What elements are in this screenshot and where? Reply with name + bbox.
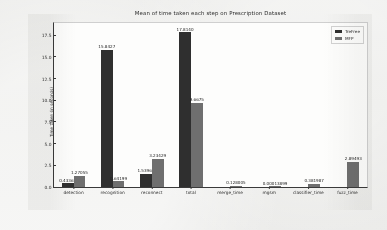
bar-total-mfp[interactable]: 9.6675 [191, 103, 203, 187]
bar-group: 0.381987classifier_time [289, 23, 328, 187]
y-tick-label: 7.5 [45, 119, 54, 124]
bar-total-trefree[interactable]: 17.8140 [179, 32, 191, 187]
bar-value-label: 1.27055 [71, 170, 88, 175]
bar-value-label: 3.23429 [149, 153, 166, 158]
bar-value-label: 15.8427 [98, 44, 115, 49]
bar-recognition-mfp[interactable]: 0.64199 [113, 181, 125, 187]
bar-value-label: 0.00013899 [263, 181, 288, 186]
chart-legend: TreFree MFP [331, 26, 364, 44]
legend-item-series-1: MFP [335, 36, 360, 41]
bar-value-label: 0.381987 [304, 178, 324, 183]
plot-area: 0.02.55.07.510.012.515.017.5 0.433631.27… [53, 22, 368, 188]
bar-group: 0.00013899mgsm [250, 23, 289, 187]
chart-figure: Mean of time taken each step on Prescrip… [28, 14, 372, 210]
bar-value-label: 0.64199 [110, 176, 127, 181]
bar-group: 17.81409.6675total [171, 23, 210, 187]
x-tick-label-reconnect: reconnect [141, 190, 162, 195]
bar-classifier_time-mfp[interactable]: 0.381987 [308, 184, 320, 187]
bar-group: 2.89493fuzz_time [328, 23, 367, 187]
y-tick-label: 0.0 [45, 185, 54, 190]
bar-fuzz_time-mfp[interactable]: 2.89493 [347, 162, 359, 187]
bar-value-label: 0.128005 [226, 180, 246, 185]
legend-label-mfp: MFP [345, 36, 354, 41]
y-tick-label: 15.0 [42, 54, 54, 59]
legend-label-trefree: TreFree [345, 29, 360, 34]
y-tick-label: 10.0 [42, 98, 54, 103]
legend-swatch-mfp [335, 37, 342, 40]
bar-recognition-trefree[interactable]: 15.8427 [101, 50, 113, 187]
y-tick-label: 2.5 [45, 163, 54, 168]
legend-item-series-0: TreFree [335, 29, 360, 34]
figure-background: Mean of time taken each step on Prescrip… [0, 0, 387, 230]
x-tick-label-fuzz_time: fuzz_time [337, 190, 358, 195]
x-tick-label-classifier_time: classifier_time [293, 190, 324, 195]
bar-group: 0.433631.27055detection [54, 23, 93, 187]
bar-value-label: 9.6675 [190, 97, 204, 102]
bar-group: 0.128005merge_time [211, 23, 250, 187]
x-tick-label-recognition: recognition [101, 190, 125, 195]
bar-detection-mfp[interactable]: 1.27055 [74, 176, 86, 187]
bar-mgsm-mfp[interactable]: 0.00013899 [269, 186, 281, 187]
bar-merge_time-mfp[interactable]: 0.128005 [230, 186, 242, 187]
bar-group: 1.539623.23429reconnect [132, 23, 171, 187]
x-tick-label-detection: detection [63, 190, 83, 195]
x-tick-label-total: total [186, 190, 196, 195]
bar-detection-trefree[interactable]: 0.43363 [62, 183, 74, 187]
bar-groups: 0.433631.27055detection15.84270.64199rec… [54, 23, 367, 187]
bar-value-label: 2.89493 [345, 156, 362, 161]
x-tick-label-merge_time: merge_time [217, 190, 243, 195]
bar-reconnect-mfp[interactable]: 3.23429 [152, 159, 164, 187]
legend-swatch-trefree [335, 30, 342, 33]
chart-title: Mean of time taken each step on Prescrip… [53, 10, 368, 16]
y-tick-label: 17.5 [42, 33, 54, 38]
bar-value-label: 17.8140 [177, 27, 194, 32]
x-tick-label-mgsm: mgsm [263, 190, 276, 195]
bar-reconnect-trefree[interactable]: 1.53962 [140, 174, 152, 187]
y-tick-label: 12.5 [42, 76, 54, 81]
y-tick-label: 5.0 [45, 141, 54, 146]
bar-group: 15.84270.64199recognition [93, 23, 132, 187]
